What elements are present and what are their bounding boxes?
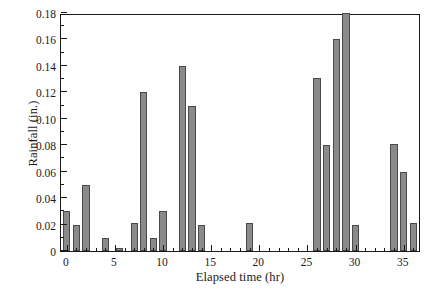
- x-tick-minor: [413, 248, 414, 251]
- x-tick-label: 30: [335, 256, 375, 268]
- bar: [400, 172, 407, 251]
- x-tick-minor: [317, 248, 318, 251]
- rainfall-bar-chart: Rainfall (in.) Elapsed time (hr) 00.020.…: [0, 0, 431, 295]
- y-tick-minor: [61, 78, 64, 79]
- x-tick-label: 10: [142, 256, 182, 268]
- x-tick-minor: [105, 248, 106, 251]
- x-tick-minor: [202, 248, 203, 251]
- x-tick-minor: [96, 248, 97, 251]
- bar: [131, 223, 138, 251]
- y-tick-minor: [61, 157, 64, 158]
- y-tick-minor: [61, 210, 64, 211]
- x-tick-minor: [173, 248, 174, 251]
- bar: [140, 92, 147, 251]
- x-tick-label: 15: [190, 256, 230, 268]
- x-tick-minor: [250, 248, 251, 251]
- y-tick-major: [61, 118, 67, 119]
- x-tick-minor: [394, 248, 395, 251]
- x-tick-major: [259, 245, 260, 251]
- y-tick-minor: [61, 184, 64, 185]
- bar: [188, 106, 195, 251]
- x-tick-minor: [327, 248, 328, 251]
- y-tick-label: 0: [4, 246, 56, 258]
- x-tick-label: 0: [46, 256, 86, 268]
- y-tick-label: 0.02: [4, 220, 56, 232]
- x-tick-label: 35: [383, 256, 423, 268]
- x-tick-major: [67, 245, 68, 251]
- y-tick-major: [61, 91, 67, 92]
- x-tick-minor: [279, 248, 280, 251]
- x-tick-major: [163, 245, 164, 251]
- x-tick-minor: [221, 248, 222, 251]
- y-axis-title: Rainfall (in.): [26, 54, 41, 214]
- y-tick-minor: [61, 52, 64, 53]
- x-tick-minor: [76, 248, 77, 251]
- y-tick-major: [61, 171, 67, 172]
- y-tick-minor: [61, 131, 64, 132]
- x-tick-minor: [230, 248, 231, 251]
- x-tick-minor: [269, 248, 270, 251]
- x-axis-title: Elapsed time (hr): [60, 270, 420, 285]
- x-tick-major: [307, 245, 308, 251]
- y-tick-minor: [61, 105, 64, 106]
- x-tick-minor: [134, 248, 135, 251]
- x-tick-label: 20: [238, 256, 278, 268]
- bar: [116, 248, 123, 251]
- x-tick-major: [356, 245, 357, 251]
- x-tick-minor: [192, 248, 193, 251]
- y-tick-label: 0.18: [4, 8, 56, 20]
- x-tick-minor: [346, 248, 347, 251]
- bar: [410, 223, 417, 251]
- x-tick-label: 25: [286, 256, 326, 268]
- x-tick-major: [404, 245, 405, 251]
- bar: [246, 223, 253, 251]
- x-tick-major: [211, 245, 212, 251]
- bar: [179, 66, 186, 251]
- bar: [342, 13, 349, 251]
- x-tick-minor: [125, 248, 126, 251]
- x-tick-major: [115, 245, 116, 251]
- bar: [313, 78, 320, 251]
- plot-area: [60, 14, 420, 252]
- x-tick-minor: [182, 248, 183, 251]
- x-tick-minor: [336, 248, 337, 251]
- x-tick-minor: [86, 248, 87, 251]
- bar: [323, 145, 330, 251]
- y-tick-major: [61, 12, 67, 13]
- y-tick-major: [61, 197, 67, 198]
- x-tick-minor: [144, 248, 145, 251]
- bar: [390, 144, 397, 251]
- x-tick-minor: [384, 248, 385, 251]
- x-tick-minor: [375, 248, 376, 251]
- bar: [333, 39, 340, 251]
- y-tick-major: [61, 38, 67, 39]
- x-tick-minor: [298, 248, 299, 251]
- x-tick-minor: [365, 248, 366, 251]
- x-tick-minor: [240, 248, 241, 251]
- x-tick-minor: [288, 248, 289, 251]
- bar: [82, 185, 89, 251]
- y-tick-major: [61, 65, 67, 66]
- y-tick-minor: [61, 25, 64, 26]
- x-tick-label: 5: [94, 256, 134, 268]
- plot-inner: [61, 15, 419, 251]
- x-tick-minor: [153, 248, 154, 251]
- y-tick-major: [61, 224, 67, 225]
- y-tick-major: [61, 144, 67, 145]
- y-tick-minor: [61, 237, 64, 238]
- y-tick-label: 0.16: [4, 34, 56, 46]
